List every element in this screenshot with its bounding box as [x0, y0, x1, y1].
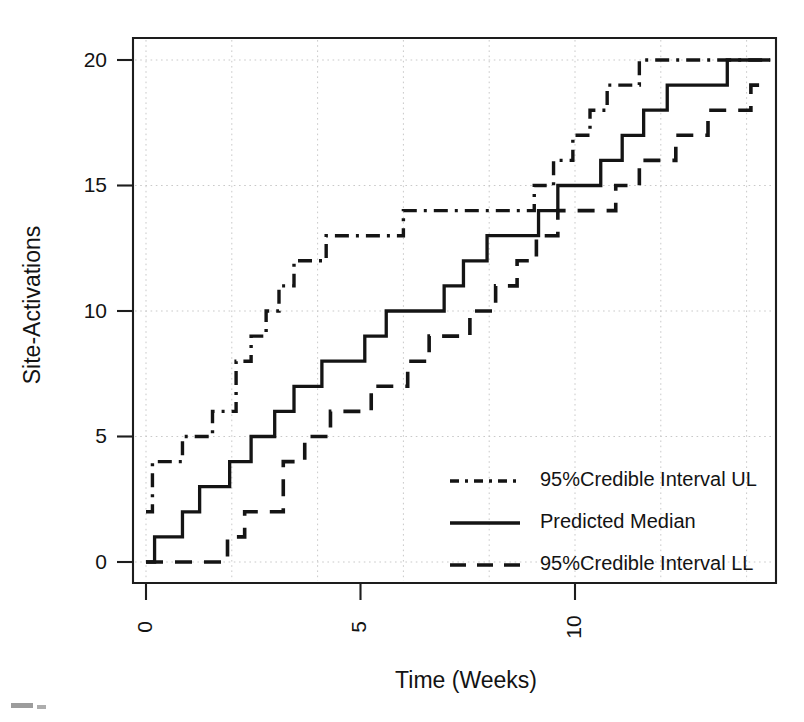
y-tick-label: 5 — [95, 424, 107, 447]
x-axis-title: Time (Weeks) — [395, 667, 537, 693]
legend-label-ll: 95%Credible Interval LL — [540, 552, 753, 574]
legend-label-ul: 95%Credible Interval UL — [540, 468, 757, 490]
x-tick-label: 0 — [133, 621, 156, 633]
x-tick-label: 10 — [562, 615, 585, 638]
chart-background — [0, 0, 804, 722]
legend-label-median: Predicted Median — [540, 510, 696, 532]
step-chart: 05101520 0510 Time (Weeks) Site-Activati… — [0, 0, 804, 722]
chart-figure: 05101520 0510 Time (Weeks) Site-Activati… — [0, 0, 804, 722]
x-tick-label: 5 — [347, 621, 370, 633]
y-tick-label: 10 — [84, 299, 107, 322]
y-tick-label: 15 — [84, 173, 107, 196]
y-axis-title: Site-Activations — [19, 226, 45, 385]
y-tick-label: 20 — [84, 48, 107, 71]
y-tick-label: 0 — [95, 550, 107, 573]
